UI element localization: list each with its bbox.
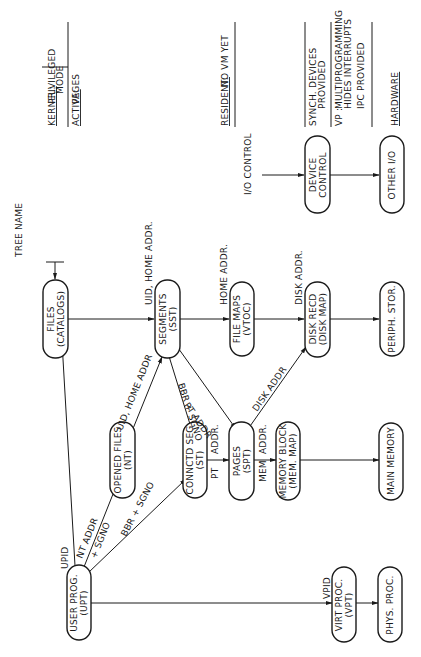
label-home-addr: HOME ADDR. xyxy=(219,244,229,305)
legend-active-val: PAGES xyxy=(71,74,81,104)
svg-text:OTHER I/O: OTHER I/O xyxy=(387,151,397,200)
svg-text:VIRT PROC.: VIRT PROC. xyxy=(334,579,344,632)
svg-text:(UPT): (UPT) xyxy=(79,590,89,616)
svg-text:USER PROG.: USER PROG. xyxy=(69,574,79,632)
svg-text:(DISK MAP): (DISK MAP) xyxy=(318,293,328,345)
label-mem-addr: ADDR. xyxy=(258,424,268,454)
label-uid-home-addr-diag: UID, HOME ADDR xyxy=(115,353,155,432)
node-periph-stor: PERIPH. STOR. xyxy=(380,282,404,356)
node-opened-files: OPENED FILES (NT) xyxy=(110,422,135,498)
svg-text:(CATALOGS): (CATALOGS) xyxy=(56,291,66,347)
node-device-control: DEVICE CONTROL xyxy=(305,136,330,213)
svg-text:FILES: FILES xyxy=(46,306,56,331)
svg-text:DISK RECD: DISK RECD xyxy=(308,293,318,344)
label-pt: PT xyxy=(210,467,220,479)
label-disk-addr-top: DISK ADDR. xyxy=(294,250,304,305)
legend-kernel-val-2: MODE xyxy=(55,66,65,94)
label-disk-addr-diag: DISK ADDR xyxy=(250,365,288,413)
label-vpid: VPID xyxy=(322,577,332,599)
edge-pages-diskrecd xyxy=(248,347,306,429)
label-upid: UPID xyxy=(60,547,70,569)
legend-synch-2: PROVIDED xyxy=(317,60,327,109)
svg-text:(VPT): (VPT) xyxy=(344,592,354,617)
node-main-memory: MAIN MEMORY xyxy=(379,423,403,500)
node-files: FILES (CATALOGS) xyxy=(43,280,68,358)
svg-text:(MEM. MAP): (MEM. MAP) xyxy=(288,433,298,488)
svg-text:PERIPH. STOR.: PERIPH. STOR. xyxy=(387,285,397,352)
svg-text:(NT): (NT) xyxy=(123,450,133,470)
svg-text:DEVICE: DEVICE xyxy=(308,158,318,193)
svg-text:CONTROL: CONTROL xyxy=(318,152,328,197)
node-pages: PAGES (SPT) xyxy=(229,422,254,500)
svg-text:PHYS. PROC.: PHYS. PROC. xyxy=(385,575,395,634)
node-other-io: OTHER I/O xyxy=(380,136,404,213)
diagram-canvas: FILES (CATALOGS) SEGMENTS (SST) FILE MAP… xyxy=(0,0,421,657)
svg-text:FILE MAPS: FILE MAPS xyxy=(232,295,242,343)
svg-text:(SPT): (SPT) xyxy=(242,449,252,474)
label-pt-addr: ADDR. xyxy=(210,424,220,454)
node-segments: SEGMENTS (SST) xyxy=(155,280,180,358)
svg-text:MAIN MEMORY: MAIN MEMORY xyxy=(386,427,396,495)
legend-vp-3: IPC PROVIDED xyxy=(356,42,366,109)
legend-hardware: HARDWARE xyxy=(390,72,400,126)
label-tree-name: TREE NAME xyxy=(14,203,24,258)
legend-vp-key: VP : xyxy=(334,108,344,126)
node-memory-block: MEMORY BLOCK (MEM. MAP) xyxy=(276,422,300,500)
diagram-svg: FILES (CATALOGS) SEGMENTS (SST) FILE MAP… xyxy=(0,0,421,657)
svg-text:SEGMENTS: SEGMENTS xyxy=(158,293,168,344)
node-disk-recd: DISK RECD (DISK MAP) xyxy=(305,282,330,357)
svg-text:(ST): (ST) xyxy=(195,450,205,469)
legend-vp-2: HIDES INTERRUPTS xyxy=(343,19,353,109)
label-io-control: I/O CONTROL xyxy=(243,133,253,195)
label-mem: MEM xyxy=(258,460,268,482)
node-virt-proc: VIRT PROC. (VPT) xyxy=(332,567,356,642)
svg-text:(VTOC): (VTOC) xyxy=(242,302,252,335)
nodes: FILES (CATALOGS) SEGMENTS (SST) FILE MAP… xyxy=(43,136,404,642)
svg-text:(SST): (SST) xyxy=(168,307,178,332)
legend: KERNEL: PRIVILEGED MODE ACTIVE: PAGES RE… xyxy=(42,10,400,127)
node-user-prog: USER PROG. (UPT) xyxy=(67,565,91,640)
node-file-maps: FILE MAPS (VTOC) xyxy=(230,282,254,356)
svg-text:OPENED FILES: OPENED FILES xyxy=(113,426,123,493)
label-uid-home-addr-top: UID, HOME ADDR. xyxy=(144,221,154,305)
node-phys-proc: PHYS. PROC. xyxy=(378,567,402,642)
svg-text:MEMORY BLOCK: MEMORY BLOCK xyxy=(278,423,288,499)
svg-text:PAGES: PAGES xyxy=(232,446,242,476)
edge-labels: TREE NAME UID, HOME ADDR. HOME ADDR. DIS… xyxy=(14,133,332,599)
legend-resident-val: NO VM YET xyxy=(220,35,230,87)
